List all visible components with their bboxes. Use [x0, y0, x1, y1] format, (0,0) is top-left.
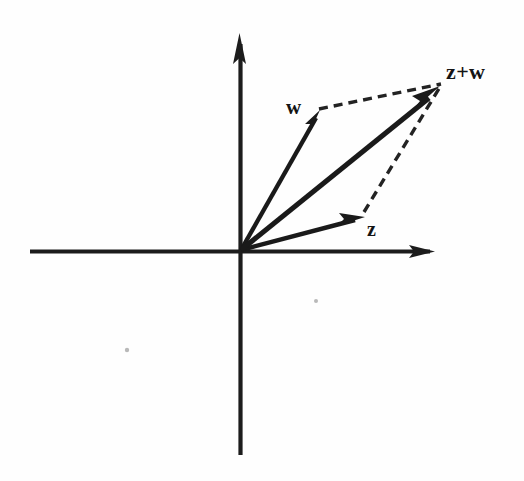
vector-w-shaft — [241, 118, 316, 250]
vector-w-group — [241, 110, 320, 250]
dashed-line-z-to-sum — [364, 87, 440, 212]
vector-z-label: z — [367, 219, 376, 239]
vector-addition-figure: w z z+w — [0, 0, 524, 481]
scan-speck — [125, 348, 129, 352]
scan-speck — [314, 299, 318, 303]
axes-group — [30, 33, 435, 455]
scan-specks-group — [125, 299, 318, 352]
vector-zw-arrowhead-icon — [412, 86, 440, 110]
vector-zw-label: z+w — [446, 61, 485, 83]
vector-w-label: w — [286, 97, 301, 118]
vector-z-arrowhead-icon — [337, 213, 365, 226]
